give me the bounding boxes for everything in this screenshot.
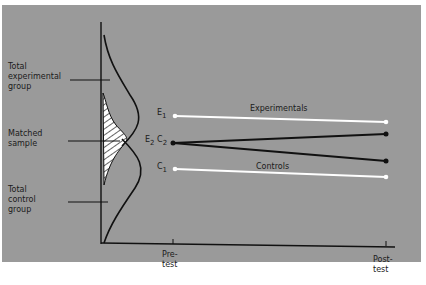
tick-label-pretest: Pre- test (162, 250, 178, 270)
tick-label-posttest: Post- test (373, 255, 393, 275)
label-line: Pre- (162, 250, 178, 260)
label-controls: Controls (256, 162, 289, 171)
label-line: control (8, 195, 36, 205)
label-line: Post- (373, 255, 393, 265)
label-e1: E1 (157, 108, 167, 121)
label-total-experimental-group: Total experimental group (8, 62, 61, 92)
diagram-graphics (0, 0, 426, 285)
label-line: Total (8, 185, 36, 195)
label-line: group (8, 205, 36, 215)
label-line: test (373, 265, 393, 275)
x-axis (101, 243, 395, 247)
label-matched-sample: Matched sample (8, 129, 42, 149)
e1-line (175, 116, 386, 122)
label-line: experimental (8, 72, 61, 82)
label-line: Total (8, 62, 61, 72)
e2-line (173, 134, 386, 143)
label-line: sample (8, 139, 42, 149)
label-total-control-group: Total control group (8, 185, 36, 215)
label-e2-c2: E2 C2 (145, 135, 167, 148)
label-line: test (162, 260, 178, 270)
c2-line (173, 143, 386, 161)
label-line: Matched (8, 129, 42, 139)
matched-sample-region (103, 93, 127, 185)
label-experimentals: Experimentals (250, 104, 308, 113)
label-c1: C1 (157, 162, 167, 175)
label-line: group (8, 82, 61, 92)
